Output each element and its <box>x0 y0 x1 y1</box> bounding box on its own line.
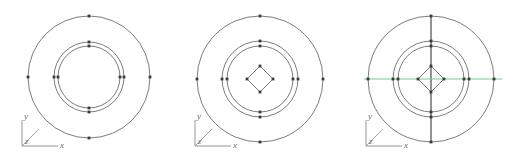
middle-circle[interactable] <box>222 41 298 117</box>
vertex-marker[interactable] <box>88 15 91 18</box>
vertex-marker[interactable] <box>88 111 91 114</box>
vertex-marker[interactable] <box>468 78 471 81</box>
vertex-marker[interactable] <box>392 78 395 81</box>
vertex-marker[interactable] <box>272 78 275 81</box>
vertex-marker[interactable] <box>259 141 262 144</box>
vertex-marker[interactable] <box>322 78 325 81</box>
vertex-marker[interactable] <box>149 76 152 79</box>
vertex-marker[interactable] <box>259 65 262 68</box>
axis-triad: yxz <box>366 111 408 150</box>
vertex-marker[interactable] <box>259 111 262 114</box>
vertex-marker[interactable] <box>430 116 433 119</box>
center-diamond[interactable] <box>247 66 273 92</box>
inner-circle[interactable] <box>227 46 293 112</box>
vertex-marker[interactable] <box>430 111 433 114</box>
vertex-marker[interactable] <box>430 40 433 43</box>
vertex-marker[interactable] <box>259 45 262 48</box>
x-axis-label: x <box>59 140 64 150</box>
vertex-marker[interactable] <box>88 45 91 48</box>
vertex-marker[interactable] <box>259 15 262 18</box>
axis-triad: yxz <box>195 111 237 150</box>
x-axis-label: x <box>403 140 408 150</box>
vertex-marker[interactable] <box>430 65 433 68</box>
viewport-concentric-circles-only[interactable]: yxz <box>0 0 173 162</box>
vertex-marker[interactable] <box>443 78 446 81</box>
x-axis-label: x <box>232 140 237 150</box>
vertex-marker[interactable] <box>259 116 262 119</box>
y-axis-label: y <box>23 111 28 121</box>
vertex-marker[interactable] <box>493 78 496 81</box>
vertex-marker[interactable] <box>57 76 60 79</box>
z-axis-label: z <box>24 136 29 146</box>
viewport-concentric-circles-with-diamond[interactable]: yxz <box>173 0 346 162</box>
vertex-marker[interactable] <box>259 91 262 94</box>
vertex-marker[interactable] <box>397 78 400 81</box>
y-axis-label: y <box>367 111 372 121</box>
vertex-marker[interactable] <box>119 76 122 79</box>
vertex-marker[interactable] <box>226 78 229 81</box>
outer-circle[interactable] <box>197 16 323 142</box>
vertex-marker[interactable] <box>463 78 466 81</box>
vertex-marker[interactable] <box>27 76 30 79</box>
z-axis-label: z <box>368 136 373 146</box>
vertex-marker[interactable] <box>196 78 199 81</box>
z-axis-label: z <box>197 136 202 146</box>
vertex-marker[interactable] <box>88 41 91 44</box>
middle-circle[interactable] <box>54 42 124 112</box>
vertex-marker[interactable] <box>123 76 126 79</box>
vertex-marker[interactable] <box>88 137 91 140</box>
vertex-marker[interactable] <box>88 107 91 110</box>
y-axis-label: y <box>196 111 201 121</box>
vertex-marker[interactable] <box>430 141 433 144</box>
vertex-marker[interactable] <box>297 78 300 81</box>
vertex-marker[interactable] <box>221 78 224 81</box>
vertex-marker[interactable] <box>292 78 295 81</box>
vertex-marker[interactable] <box>259 40 262 43</box>
vertex-marker[interactable] <box>430 15 433 18</box>
vertex-marker[interactable] <box>367 78 370 81</box>
inner-circle[interactable] <box>58 46 120 108</box>
vertex-marker[interactable] <box>430 45 433 48</box>
vertex-marker[interactable] <box>246 78 249 81</box>
outer-circle[interactable] <box>28 16 150 138</box>
vertex-marker[interactable] <box>430 91 433 94</box>
vertex-marker[interactable] <box>53 76 56 79</box>
viewport-concentric-circles-with-diamond-and-centerlines[interactable]: yxz <box>346 0 519 162</box>
viewport-strip: yxzyxzyxz <box>0 0 519 162</box>
vertex-marker[interactable] <box>417 78 420 81</box>
